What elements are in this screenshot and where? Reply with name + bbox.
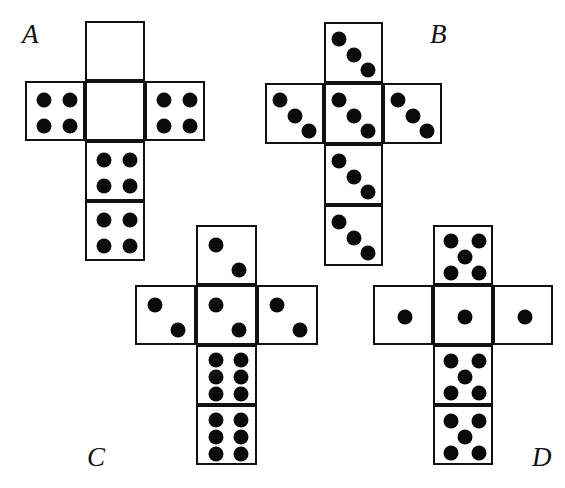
net-d-top-face bbox=[433, 225, 493, 285]
pip-dot bbox=[471, 445, 486, 460]
pip-dot bbox=[518, 310, 533, 325]
net-d-bottom-face bbox=[433, 405, 493, 465]
pip-dot bbox=[458, 430, 473, 445]
pip-dot bbox=[458, 310, 473, 325]
pip-dot bbox=[36, 119, 51, 134]
net-b-lower-face bbox=[324, 144, 383, 205]
net-label-d: D bbox=[532, 444, 552, 471]
pip-dot bbox=[444, 354, 459, 369]
pip-dot bbox=[287, 108, 302, 123]
net-d-left-face bbox=[373, 285, 433, 345]
pip-dot bbox=[233, 446, 248, 461]
net-a-left-face bbox=[25, 81, 85, 141]
pip-dot bbox=[361, 185, 376, 200]
pip-dot bbox=[405, 108, 420, 123]
pip-dot bbox=[232, 263, 247, 278]
pip-dot bbox=[331, 154, 346, 169]
net-b-center-face bbox=[324, 83, 383, 144]
pip-dot bbox=[346, 47, 361, 62]
pip-dot bbox=[398, 310, 413, 325]
pip-dot bbox=[96, 152, 111, 167]
pip-dot bbox=[233, 370, 248, 385]
pip-dot bbox=[346, 108, 361, 123]
pip-dot bbox=[444, 445, 459, 460]
pip-dot bbox=[293, 323, 308, 338]
pip-dot bbox=[471, 414, 486, 429]
net-a-lower-face bbox=[85, 141, 145, 201]
pip-dot bbox=[302, 124, 317, 139]
pip-dot bbox=[63, 92, 78, 107]
pip-dot bbox=[63, 119, 78, 134]
pip-dot bbox=[171, 323, 186, 338]
pip-dot bbox=[123, 179, 138, 194]
pip-dot bbox=[183, 119, 198, 134]
pip-dot bbox=[272, 93, 287, 108]
pip-dot bbox=[471, 234, 486, 249]
net-c-top-face bbox=[196, 225, 257, 285]
pip-dot bbox=[471, 385, 486, 400]
net-label-a: A bbox=[22, 21, 39, 48]
net-c-right-face bbox=[257, 285, 318, 345]
pip-dot bbox=[390, 93, 405, 108]
pip-dot bbox=[208, 298, 223, 313]
pip-dot bbox=[233, 386, 248, 401]
pip-dot bbox=[233, 353, 248, 368]
net-b-bottom-face bbox=[324, 205, 383, 266]
net-label-c: C bbox=[87, 444, 105, 471]
pip-dot bbox=[147, 298, 162, 313]
pip-dot bbox=[346, 230, 361, 245]
net-a-bottom-face bbox=[85, 201, 145, 261]
pip-dot bbox=[233, 430, 248, 445]
pip-dot bbox=[123, 212, 138, 227]
pip-dot bbox=[209, 430, 224, 445]
pip-dot bbox=[346, 169, 361, 184]
pip-dot bbox=[123, 152, 138, 167]
pip-dot bbox=[96, 212, 111, 227]
net-c-center-face bbox=[196, 285, 257, 345]
pip-dot bbox=[361, 246, 376, 261]
pip-dot bbox=[123, 239, 138, 254]
pip-dot bbox=[156, 119, 171, 134]
pip-dot bbox=[361, 63, 376, 78]
pip-dot bbox=[331, 215, 346, 230]
pip-dot bbox=[458, 250, 473, 265]
net-d-right-face bbox=[493, 285, 553, 345]
pip-dot bbox=[269, 298, 284, 313]
pip-dot bbox=[183, 92, 198, 107]
pip-dot bbox=[471, 354, 486, 369]
pip-dot bbox=[232, 323, 247, 338]
pip-dot bbox=[209, 386, 224, 401]
net-b-right-face bbox=[383, 83, 442, 144]
pip-dot bbox=[96, 239, 111, 254]
dice-net-figure: ABCD bbox=[0, 0, 565, 488]
pip-dot bbox=[361, 124, 376, 139]
net-a-right-face bbox=[145, 81, 205, 141]
net-c-left-face bbox=[135, 285, 196, 345]
pip-dot bbox=[444, 414, 459, 429]
pip-dot bbox=[331, 93, 346, 108]
net-a-center-face bbox=[85, 81, 145, 141]
pip-dot bbox=[209, 413, 224, 428]
pip-dot bbox=[471, 265, 486, 280]
pip-dot bbox=[233, 413, 248, 428]
pip-dot bbox=[96, 179, 111, 194]
net-c-bottom-face bbox=[196, 405, 257, 465]
pip-dot bbox=[156, 92, 171, 107]
pip-dot bbox=[420, 124, 435, 139]
pip-dot bbox=[36, 92, 51, 107]
pip-dot bbox=[331, 32, 346, 47]
net-a-top-face bbox=[85, 21, 145, 81]
pip-dot bbox=[209, 370, 224, 385]
pip-dot bbox=[458, 370, 473, 385]
pip-dot bbox=[208, 238, 223, 253]
net-b-top-face bbox=[324, 22, 383, 83]
pip-dot bbox=[209, 446, 224, 461]
net-c-lower-face bbox=[196, 345, 257, 405]
net-d-lower-face bbox=[433, 345, 493, 405]
pip-dot bbox=[444, 385, 459, 400]
net-b-left-face bbox=[265, 83, 324, 144]
net-label-b: B bbox=[430, 21, 447, 48]
pip-dot bbox=[444, 265, 459, 280]
net-d-center-face bbox=[433, 285, 493, 345]
pip-dot bbox=[444, 234, 459, 249]
